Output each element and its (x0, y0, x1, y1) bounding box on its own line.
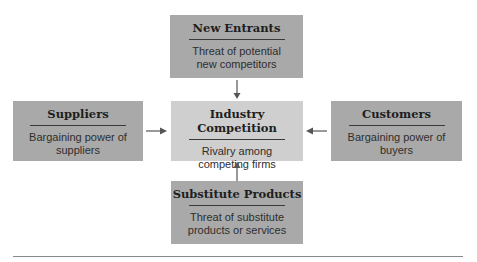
suppliers-desc-1: Bargaining power of (13, 131, 143, 144)
substitute-products-box: Substitute Products Threat of substitute… (171, 181, 303, 244)
suppliers-title: Suppliers (13, 107, 143, 121)
arrow-down-icon (232, 80, 242, 100)
suppliers-box: Suppliers Bargaining power of suppliers (13, 101, 143, 161)
new-entrants-desc-2: new competitors (170, 58, 303, 71)
divider (30, 125, 126, 126)
new-entrants-title: New Entrants (170, 21, 303, 35)
customers-desc-2: buyers (331, 144, 462, 157)
industry-competition-box: Industry Competition Rivalry among compe… (171, 101, 303, 161)
divider (349, 125, 445, 126)
arrow-left-icon (305, 126, 327, 136)
industry-competition-title: Industry Competition (171, 107, 303, 135)
customers-title: Customers (331, 107, 462, 121)
suppliers-desc-2: suppliers (13, 144, 143, 157)
arrow-right-icon (146, 126, 168, 136)
arrow-up-icon (232, 162, 242, 181)
bottom-divider (13, 256, 463, 257)
customers-desc-1: Bargaining power of (331, 131, 462, 144)
new-entrants-desc-1: Threat of potential (170, 45, 303, 58)
divider (189, 205, 285, 206)
substitute-products-desc-2: products or services (171, 224, 303, 237)
customers-box: Customers Bargaining power of buyers (331, 101, 462, 161)
substitute-products-title: Substitute Products (171, 187, 303, 201)
divider (189, 139, 285, 140)
divider (189, 39, 285, 40)
substitute-products-desc-1: Threat of substitute (171, 211, 303, 224)
industry-competition-desc-1: Rivalry among (171, 145, 303, 158)
new-entrants-box: New Entrants Threat of potential new com… (170, 15, 303, 78)
